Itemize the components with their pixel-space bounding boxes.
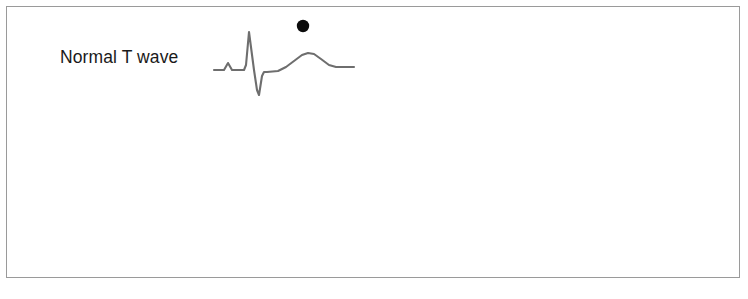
panel-inverted-t-wave: Inverted T wave (374, 0, 748, 150)
ecg-t-wave-figure: Normal T wave Inverted T wave Tall, poin… (0, 0, 748, 299)
t-wave-marker-dot (297, 20, 309, 32)
panel-normal-t-wave: Normal T wave (0, 0, 374, 150)
panel-flattened-t-wave: Flattened T wave (374, 150, 748, 299)
panel-tall-pointy-t-wave: Tall, pointy T wave (0, 150, 374, 299)
label-normal-t-wave: Normal T wave (60, 47, 178, 68)
ecg-trace-path (214, 32, 354, 95)
ecg-waveform-normal (212, 8, 357, 100)
